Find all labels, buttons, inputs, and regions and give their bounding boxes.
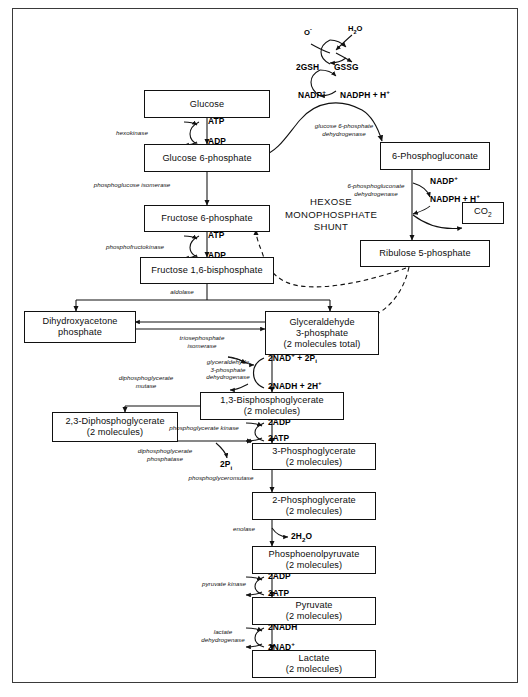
enzyme-label-aldolase: aldolase bbox=[152, 288, 212, 296]
cofactor-label-2adp-pyruvate-kinase: 2ADP bbox=[268, 571, 291, 581]
metabolite-box-3-phosphoglycerate: 3-Phosphoglycerate (2 molecules) bbox=[252, 443, 376, 470]
pathway-diagram-page: Glucose Glucose 6-phosphate Fructose 6-p… bbox=[0, 0, 528, 697]
metabolite-label-ribulose-5-phosphate: Ribulose 5-phosphate bbox=[379, 248, 470, 259]
metabolite-label-pg2-line2: (2 molecules) bbox=[286, 506, 342, 517]
enzyme-label-phosphofructokinase: phosphofructokinase bbox=[84, 243, 186, 251]
metabolite-box-carbon-dioxide: CO2 bbox=[462, 202, 504, 224]
metabolite-box-glyceraldehyde-3-phosphate: Glyceraldehyde 3-phosphate (2 molecules … bbox=[265, 311, 379, 355]
cofactor-label-nadh-2h-plus: 2NADH + 2H+ bbox=[268, 379, 322, 391]
metabolite-box-pyruvate: Pyruvate (2 molecules) bbox=[252, 597, 376, 625]
metabolite-label-glucose: Glucose bbox=[190, 99, 224, 110]
enzyme-label-phosphoglyceromutase: phosphoglyceromutase bbox=[168, 474, 274, 482]
redox-label-water: H2O bbox=[348, 24, 363, 35]
cofactor-label-adp-phosphofructokinase: ADP bbox=[208, 250, 226, 260]
metabolite-label-g3p-line1: Glyceraldehyde bbox=[289, 317, 354, 328]
metabolite-box-glucose-6-phosphate: Glucose 6-phosphate bbox=[144, 144, 270, 172]
metabolite-label-pg2-line1: 2-Phosphoglycerate bbox=[272, 495, 356, 506]
metabolite-box-fructose-6-phosphate: Fructose 6-phosphate bbox=[144, 205, 270, 232]
enzyme-label-diphosphoglycerate-phosphatase: diphosphoglycerate phosphatase bbox=[112, 447, 218, 462]
metabolite-label-pep-line1: Phosphoenolpyruvate bbox=[269, 549, 360, 560]
metabolite-label-pg3-line1: 3-Phosphoglycerate bbox=[272, 446, 356, 457]
cofactor-label-nadph-h-plus-g6pd: NADPH + H+ bbox=[340, 88, 390, 100]
metabolite-box-1-3-bisphosphoglycerate: 1,3-Bisphosphoglycerate (2 molecules) bbox=[200, 392, 344, 420]
cofactor-label-atp-phosphofructokinase: ATP bbox=[208, 230, 224, 240]
redox-label-2gsh: 2GSH bbox=[296, 62, 319, 72]
redox-label-superoxide: O- bbox=[304, 26, 312, 37]
enzyme-label-diphosphoglycerate-mutase: diphosphoglycerate mutase bbox=[90, 374, 202, 389]
metabolite-label-fructose-6-phosphate: Fructose 6-phosphate bbox=[161, 213, 252, 224]
metabolite-box-fructose-1-6-bisphosphate: Fructose 1,6-bisphosphate bbox=[140, 257, 274, 284]
enzyme-label-triosephosphate-isomerase: triosephosphate isomerase bbox=[146, 334, 258, 349]
cofactor-label-2pi-phosphatase: 2Pi bbox=[220, 459, 232, 471]
cofactor-label-2atp-phosphoglycerate-kinase: 2ATP bbox=[268, 433, 289, 443]
enzyme-label-glucose-6-phosphate-dehydrogenase: glucose 6-phosphate dehydrogenase bbox=[290, 122, 398, 137]
cofactor-label-nadp-plus-g6pd: NADP+ bbox=[298, 88, 326, 100]
enzyme-label-pyruvate-kinase: pyruvate kinase bbox=[182, 580, 266, 588]
metabolite-box-glucose: Glucose bbox=[144, 90, 270, 118]
cofactor-label-2h2o-enolase: 2H2O bbox=[291, 531, 312, 543]
metabolite-label-co2: CO2 bbox=[474, 206, 492, 220]
enzyme-label-enolase: enolase bbox=[216, 525, 272, 533]
metabolite-label-g3p-line3: (2 molecules total) bbox=[284, 339, 361, 350]
metabolite-box-dihydroxyacetone-phosphate: Dihydroxyacetone phosphate bbox=[24, 311, 136, 343]
metabolite-label-pyruvate-line2: (2 molecules) bbox=[286, 611, 342, 622]
cofactor-label-adp-hexokinase: ADP bbox=[208, 136, 226, 146]
metabolite-box-2-phosphoglycerate: 2-Phosphoglycerate (2 molecules) bbox=[252, 492, 376, 520]
cofactor-label-2atp-pyruvate-kinase: 2ATP bbox=[268, 588, 289, 598]
metabolite-label-dpg23-line2: (2 molecules) bbox=[87, 427, 143, 438]
metabolite-box-lactate: Lactate (2 molecules) bbox=[252, 650, 376, 678]
metabolite-box-6-phosphogluconate: 6-Phosphogluconate bbox=[380, 142, 490, 170]
enzyme-label-lactate-dehydrogenase: lactate dehydrogenase bbox=[180, 628, 266, 643]
metabolite-label-lactate-line1: Lactate bbox=[299, 653, 330, 664]
metabolite-label-dhap-line2: phosphate bbox=[58, 327, 102, 338]
metabolite-label-6-phosphogluconate: 6-Phosphogluconate bbox=[392, 151, 478, 162]
metabolite-box-ribulose-5-phosphate: Ribulose 5-phosphate bbox=[360, 240, 490, 267]
enzyme-label-phosphoglucose-isomerase: phosphoglucose isomerase bbox=[72, 181, 192, 189]
metabolite-label-g3p-line2: 3-phosphate bbox=[296, 328, 348, 339]
metabolite-label-dhap-line1: Dihydroxyacetone bbox=[42, 316, 117, 327]
cofactor-label-nadp-plus-pgd: NADP+ bbox=[430, 174, 458, 186]
cofactor-label-2nadh-lactate-dehydrogenase: 2NADH bbox=[268, 622, 297, 632]
metabolite-label-glucose-6-phosphate: Glucose 6-phosphate bbox=[162, 153, 251, 164]
metabolite-label-fructose-1-6-bisphosphate: Fructose 1,6-bisphosphate bbox=[151, 265, 262, 276]
cofactor-label-nadph-h-plus-pgd: NADPH + H+ bbox=[430, 192, 480, 204]
metabolite-label-lactate-line2: (2 molecules) bbox=[286, 664, 342, 675]
cofactor-label-2adp-phosphoglycerate-kinase: 2ADP bbox=[268, 417, 291, 427]
metabolite-label-bpg13-line2: (2 molecules) bbox=[244, 406, 300, 417]
cofactor-label-atp-hexokinase: ATP bbox=[208, 116, 224, 126]
pathway-title-hexose-monophosphate-shunt: HEXOSE MONOPHOSPHATE SHUNT bbox=[272, 196, 390, 234]
cofactor-label-nad-plus-2pi: 2NAD+ + 2Pi bbox=[268, 351, 317, 364]
metabolite-box-phosphoenolpyruvate: Phosphoenolpyruvate (2 molecules) bbox=[252, 546, 376, 574]
enzyme-label-phosphoglycerate-kinase: phosphoglycerate kinase bbox=[148, 424, 260, 432]
enzyme-label-6-phosphogluconate-dehydrogenase: 6-phosphogluconate dehydrogenase bbox=[336, 182, 416, 197]
cofactor-label-2nad-plus-lactate-dehydrogenase: 2NAD+ bbox=[268, 640, 295, 652]
metabolite-label-pep-line2: (2 molecules) bbox=[286, 560, 342, 571]
metabolite-label-pg3-line2: (2 molecules) bbox=[286, 457, 342, 468]
metabolite-label-bpg13-line1: 1,3-Bisphosphoglycerate bbox=[220, 395, 323, 406]
enzyme-label-hexokinase: hexokinase bbox=[86, 129, 178, 137]
metabolite-label-pyruvate-line1: Pyruvate bbox=[295, 600, 332, 611]
redox-label-gssg: GSSG bbox=[334, 62, 359, 72]
